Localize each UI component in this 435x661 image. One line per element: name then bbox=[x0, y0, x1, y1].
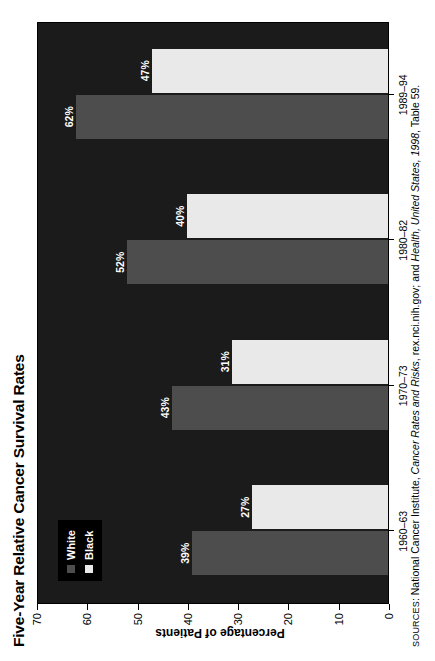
legend-item-black: Black bbox=[83, 530, 95, 573]
plot-area: 39%27%43%31%52%40%62%47% WhiteBlack bbox=[37, 22, 389, 604]
bar-white-1980–82 bbox=[127, 240, 388, 284]
legend-swatch-icon bbox=[67, 565, 75, 573]
bar-value-label: 40% bbox=[174, 206, 186, 227]
x-tick-mark bbox=[389, 94, 394, 95]
bar-value-label: 47% bbox=[139, 60, 151, 81]
source-note-italic1: Cancer Rates and Risks bbox=[409, 361, 421, 474]
y-tick-mark bbox=[288, 604, 289, 610]
bar-white-1970–73 bbox=[172, 386, 388, 430]
source-note-italic2: Health, United States, 1998 bbox=[409, 133, 421, 261]
y-axis-title: Percentage of Patients bbox=[44, 626, 396, 640]
chart-title: Five-Year Relative Cancer Survival Rates bbox=[10, 354, 28, 647]
y-tick-mark bbox=[87, 604, 88, 610]
bar-black-1960–63 bbox=[252, 485, 388, 529]
bar-white-1989–94 bbox=[76, 95, 388, 139]
x-tick-mark bbox=[389, 385, 394, 386]
y-tick-label: 10 bbox=[333, 613, 345, 625]
y-tick-mark bbox=[37, 604, 38, 610]
bar-value-label: 27% bbox=[239, 497, 251, 518]
x-tick-label: 1970–73 bbox=[397, 365, 409, 406]
bar-value-label: 52% bbox=[114, 252, 126, 273]
y-tick-label: 40 bbox=[182, 613, 194, 625]
legend-label: White bbox=[65, 530, 77, 560]
bar-black-1970–73 bbox=[232, 340, 388, 384]
y-tick-label: 20 bbox=[282, 613, 294, 625]
bar-value-label: 39% bbox=[179, 543, 191, 564]
legend-label: Black bbox=[83, 531, 95, 560]
y-tick-mark bbox=[389, 604, 390, 610]
bar-value-label: 62% bbox=[63, 106, 75, 127]
bar-black-1980–82 bbox=[187, 194, 388, 238]
y-tick-mark bbox=[238, 604, 239, 610]
x-tick-label: 1960–63 bbox=[397, 511, 409, 552]
y-tick-mark bbox=[188, 604, 189, 610]
x-tick-mark bbox=[389, 530, 394, 531]
y-axis: 010203040506070 Percentage of Patients bbox=[37, 604, 389, 661]
x-tick-label: 1980–82 bbox=[397, 220, 409, 261]
bar-value-label: 31% bbox=[219, 351, 231, 372]
source-note-part3: , Table 59. bbox=[409, 85, 421, 133]
source-note-part2: , rex.nci.nih.gov; and bbox=[409, 261, 421, 361]
legend-item-white: White bbox=[65, 530, 77, 573]
y-tick-label: 60 bbox=[81, 613, 93, 625]
y-tick-label: 0 bbox=[383, 613, 395, 619]
source-note-part1: National Cancer Institute, bbox=[409, 474, 421, 595]
x-tick-mark bbox=[389, 239, 394, 240]
chart-figure: Five-Year Relative Cancer Survival Rates… bbox=[0, 0, 435, 661]
y-tick-label: 30 bbox=[232, 613, 244, 625]
source-note-separator: : bbox=[409, 595, 421, 601]
x-tick-label: 1989–94 bbox=[397, 74, 409, 115]
y-tick-label: 50 bbox=[132, 613, 144, 625]
source-note-prefix: SOURCES bbox=[411, 601, 421, 647]
y-tick-mark bbox=[339, 604, 340, 610]
source-note: SOURCES: National Cancer Institute, Canc… bbox=[409, 85, 421, 647]
bar-value-label: 43% bbox=[159, 397, 171, 418]
bars-layer: 39%27%43%31%52%40%62%47% bbox=[38, 23, 388, 603]
chart-legend: WhiteBlack bbox=[58, 520, 102, 581]
y-tick-mark bbox=[138, 604, 139, 610]
legend-swatch-icon bbox=[85, 565, 93, 573]
y-tick-label: 70 bbox=[31, 613, 43, 625]
bar-white-1960–63 bbox=[192, 531, 388, 575]
bar-black-1989–94 bbox=[152, 49, 388, 93]
